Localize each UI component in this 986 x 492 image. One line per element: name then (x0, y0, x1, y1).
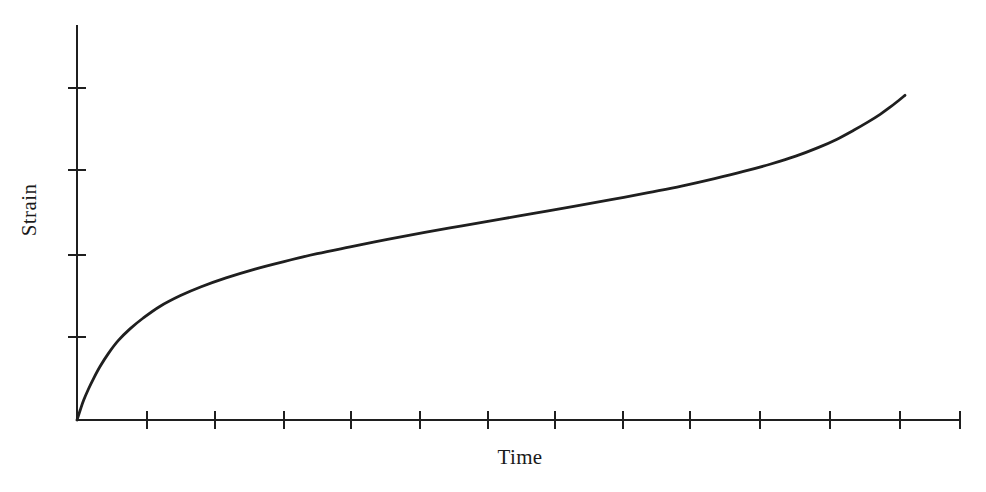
creep-curve-figure: Time Strain (0, 0, 986, 492)
y-axis-title: Strain (17, 184, 41, 237)
axis-group (77, 25, 960, 420)
tick-group (68, 88, 960, 429)
plot-area: Time Strain (0, 0, 986, 492)
creep-curve-line (77, 95, 905, 420)
x-axis-title: Time (497, 445, 542, 469)
